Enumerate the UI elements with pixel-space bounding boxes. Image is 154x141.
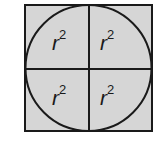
inscribed-circle-diagram (0, 0, 154, 141)
quadrant-label-top-left: r2 (52, 31, 66, 53)
quadrant-label-top-right: r2 (100, 31, 114, 53)
quadrant-label-bottom-right: r2 (100, 86, 114, 108)
quadrant-label-bottom-left: r2 (52, 86, 66, 108)
cropped-caption: . . . (50, 134, 153, 141)
